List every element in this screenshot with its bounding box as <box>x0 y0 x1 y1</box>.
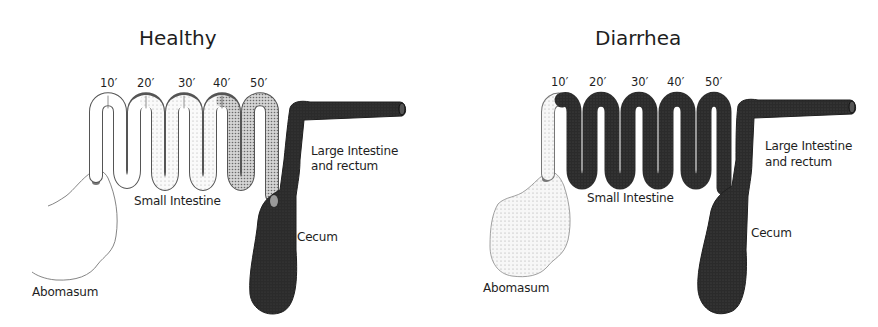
label-and-rectum: and rectum <box>311 159 378 173</box>
label-large-intestine: Large Intestine <box>765 139 852 153</box>
marker-30ft: 30′ <box>631 76 648 89</box>
marker-10ft: 10′ <box>551 76 568 89</box>
marker-30ft: 30′ <box>178 77 195 90</box>
abomasum-shape <box>490 172 570 277</box>
diarrhea-diagram: Diarrhea 10′ 20′ 30′ 40′ 50′ Large Intes… <box>440 0 878 327</box>
label-cecum: Cecum <box>751 226 792 240</box>
rectum-opening <box>849 101 855 113</box>
marker-40ft: 40′ <box>667 76 684 89</box>
healthy-diagram: Healthy 10′ 20′ 30′ 40′ 50′ Large Intest… <box>0 0 439 327</box>
marker-50ft: 50′ <box>705 76 722 89</box>
marker-50ft: 50′ <box>250 77 267 90</box>
label-small-intestine: Small Intestine <box>587 191 674 205</box>
marker-40ft: 40′ <box>213 77 230 90</box>
label-cecum: Cecum <box>297 230 338 244</box>
abomasum-shape <box>32 170 117 280</box>
ileocecal-spot <box>270 195 278 207</box>
marker-20ft: 20′ <box>589 76 606 89</box>
small-intestine-tube <box>548 99 724 188</box>
label-and-rectum: and rectum <box>765 155 832 169</box>
marker-20ft: 20′ <box>137 77 154 90</box>
label-abomasum: Abomasum <box>483 281 549 295</box>
diagram-title: Diarrhea <box>595 26 681 50</box>
marker-10ft: 10′ <box>100 77 117 90</box>
label-abomasum: Abomasum <box>32 285 98 299</box>
diagram-title: Healthy <box>139 26 217 50</box>
small-intestine-tube <box>96 96 272 195</box>
rectum-opening <box>399 103 405 115</box>
label-large-intestine: Large Intestine <box>311 144 398 158</box>
label-small-intestine: Small Intestine <box>134 194 221 208</box>
